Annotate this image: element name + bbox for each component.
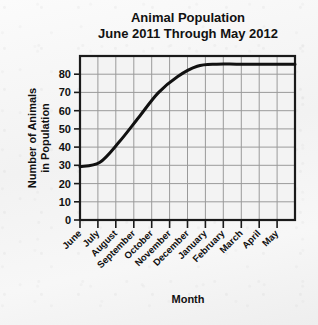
y-axis-title: Number of Animals in Population	[26, 88, 51, 188]
chart-svg: Animal Population June 2011 Through May …	[0, 0, 318, 325]
y-tick-label-80: 80	[59, 68, 71, 80]
x-axis-tick-labels: June July August September October Novem…	[60, 227, 281, 270]
y-tick-label-60: 60	[59, 105, 71, 117]
x-axis-title: Month	[172, 293, 205, 305]
y-tick-label-70: 70	[59, 86, 71, 98]
y-tick-label-20: 20	[59, 178, 71, 190]
y-tick-label-40: 40	[59, 141, 71, 153]
y-tick-label-50: 50	[59, 123, 71, 135]
y-axis-tick-labels: 0 10 20 30 40 50 60 70 80	[59, 68, 71, 226]
chart-title-line2: June 2011 Through May 2012	[98, 26, 278, 41]
y-tick-label-0: 0	[65, 214, 71, 226]
x-tick-label-april: April	[240, 228, 263, 251]
y-tick-label-30: 30	[59, 159, 71, 171]
x-axis-ticks	[80, 220, 277, 228]
y-axis-title-line1: Number of Animals	[26, 88, 38, 188]
y-tick-label-10: 10	[59, 196, 71, 208]
x-tick-label-june: June	[60, 228, 83, 251]
chart-title-line1: Animal Population	[131, 10, 245, 25]
animal-population-line-chart: Animal Population June 2011 Through May …	[0, 0, 318, 325]
x-tick-label-may: May	[260, 227, 281, 248]
y-axis-title-line2: in Population	[39, 103, 51, 173]
